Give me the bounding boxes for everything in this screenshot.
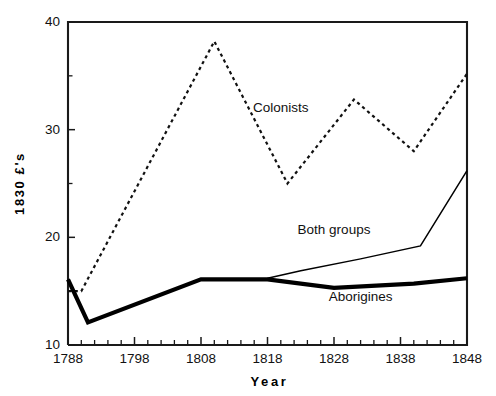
- x-tick-label: 1798: [119, 351, 149, 366]
- plot-frame: [68, 22, 467, 345]
- y-tick-label: 10: [45, 337, 60, 352]
- line-chart: 10203040 1788179818081818182818381848 Ye…: [0, 0, 496, 396]
- series-annotation-labels: ColonistsBoth groupsAborigines: [253, 100, 393, 303]
- y-tick-label: 20: [45, 229, 60, 244]
- x-tick-label: 1808: [186, 351, 216, 366]
- series-line-aborigines: [68, 278, 467, 322]
- x-tick-label: 1828: [319, 351, 349, 366]
- y-axis-tick-labels: 10203040: [45, 14, 60, 352]
- x-axis-ticks: [68, 337, 467, 345]
- series-label-colonists: Colonists: [253, 100, 309, 115]
- series-label-both-groups: Both groups: [298, 222, 371, 237]
- chart-container: 10203040 1788179818081818182818381848 Ye…: [0, 0, 496, 396]
- x-tick-label: 1788: [53, 351, 83, 366]
- y-tick-label: 40: [45, 14, 60, 29]
- x-tick-label: 1848: [452, 351, 482, 366]
- x-axis-tick-labels: 1788179818081818182818381848: [53, 351, 482, 366]
- series-label-aborigines: Aborigines: [329, 289, 393, 304]
- y-tick-label: 30: [45, 122, 60, 137]
- y-axis-title: 1830 £'s: [12, 152, 27, 215]
- data-series-group: [68, 41, 467, 322]
- series-line-colonists: [68, 41, 467, 291]
- x-tick-label: 1838: [385, 351, 415, 366]
- x-axis-title: Year: [251, 374, 289, 389]
- x-tick-label: 1818: [252, 351, 282, 366]
